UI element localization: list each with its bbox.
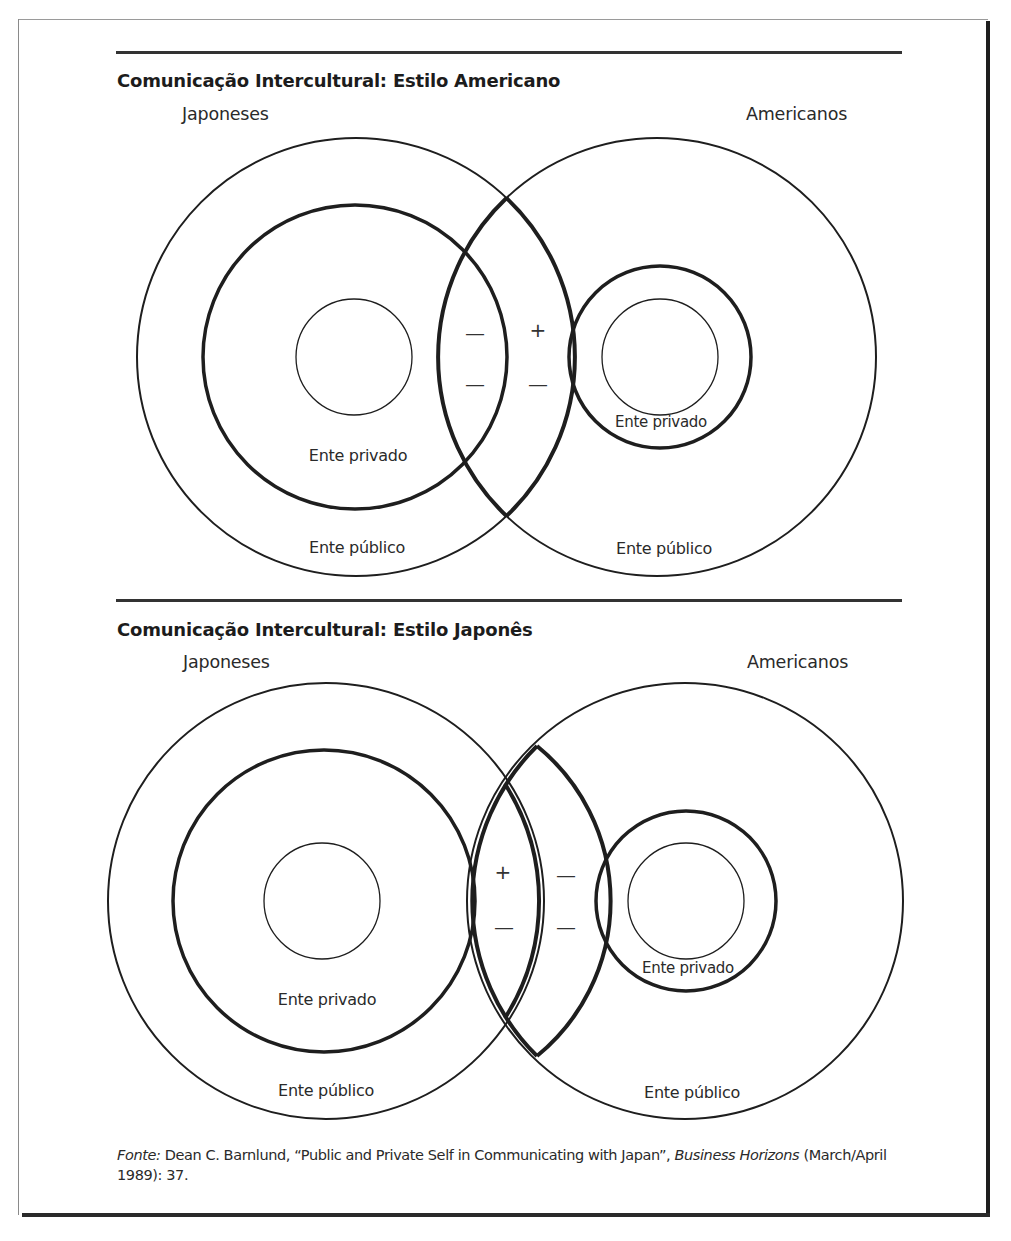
bottom-overlap-sign-right-2: — — [556, 917, 576, 937]
bottom-overlap-sign-left-1: + — [495, 862, 512, 882]
source-prefix: Fonte: — [117, 1147, 161, 1163]
bottom-overlap-right-arc — [537, 746, 611, 1056]
source-journal: Business Horizons — [675, 1147, 800, 1163]
bottom-right-public-label: Ente público — [644, 1083, 740, 1102]
bottom-overlap-middle-arc — [505, 784, 539, 1018]
bottom-venn-diagram — [0, 0, 1011, 1241]
bottom-overlap-outer-left-arc — [472, 746, 537, 1056]
source-text: Dean C. Barnlund, “Public and Private Se… — [161, 1147, 675, 1163]
bottom-left-public-label: Ente público — [278, 1081, 374, 1100]
bottom-right-private-label: Ente privado — [642, 959, 734, 977]
bottom-right-core-circle — [628, 843, 744, 959]
bottom-overlap-sign-left-2: — — [494, 917, 514, 937]
bottom-left-core-circle — [264, 843, 380, 959]
bottom-left-private-label: Ente privado — [278, 990, 376, 1009]
bottom-overlap-sign-right-1: — — [556, 865, 576, 885]
source-citation: Fonte: Dean C. Barnlund, “Public and Pri… — [117, 1145, 907, 1185]
